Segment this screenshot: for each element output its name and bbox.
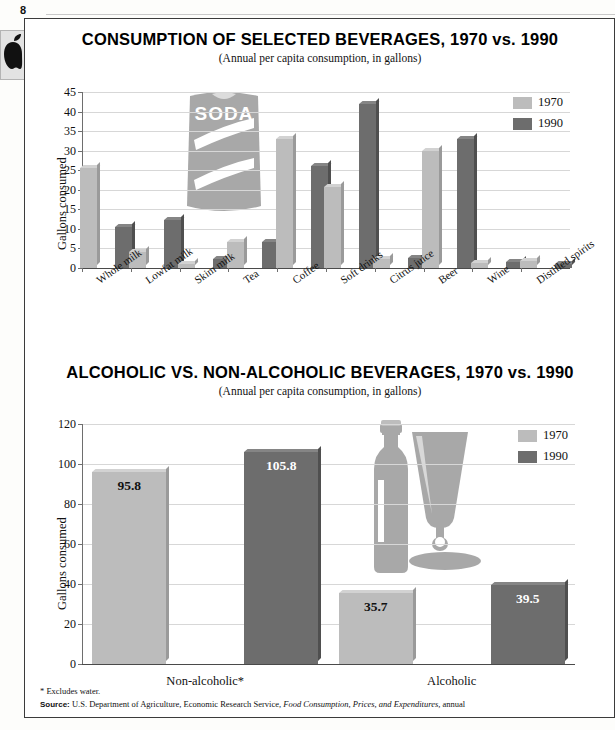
chart-1-y-axis-title: Gallons consumed (55, 157, 70, 250)
bar-face (359, 104, 376, 268)
x-tickmark (326, 268, 327, 272)
bar-side (318, 446, 321, 661)
x-tickmark (277, 268, 278, 272)
chart-2-y-axis-title: Gallons consumed (55, 517, 70, 610)
x-tickmark (521, 268, 522, 272)
bar-value-label: 95.8 (117, 478, 141, 494)
bar-1990-Non-alcoholic* (244, 452, 318, 664)
chart-1-title-text: CONSUMPTION OF SELECTED BEVERAGES, 1970 … (34, 30, 606, 49)
bar-side (376, 98, 379, 265)
legend-swatch-1970 (513, 97, 532, 109)
chart-1-legend: 1970 1990 (513, 95, 563, 137)
y-tick-label: 20 (50, 617, 76, 632)
footnote-asterisk: * Excludes water. (40, 686, 100, 696)
bar-1970-Soft drinks (324, 187, 341, 268)
page-number: 8 (20, 4, 26, 16)
bar-face (276, 139, 293, 268)
bar-side (537, 255, 540, 265)
x-axis-label: Alcoholic (427, 674, 476, 689)
bar-1970-Coffee (276, 139, 293, 268)
legend-label-1990: 1990 (538, 116, 563, 131)
bar-face (520, 261, 537, 268)
svg-text:SODA: SODA (195, 103, 254, 124)
bar-top (491, 582, 569, 585)
bar-face (324, 187, 341, 268)
y-tick-label: 45 (50, 85, 76, 100)
legend-item-1970: 1970 (513, 95, 563, 110)
legend-swatch-1990 (518, 451, 537, 463)
beer-bottle-and-glass-illustration (352, 418, 487, 583)
source-publication: Food Consumption, Prices, and Expenditur… (283, 699, 440, 709)
chart-2-title-text: ALCOHOLIC VS. NON-ALCOHOLIC BEVERAGES, 1… (34, 363, 606, 382)
bar-1990-Beer (457, 139, 474, 268)
chart-2-subtitle: (Annual per capita consumption, in gallo… (34, 385, 606, 397)
y-tick-label: 40 (50, 104, 76, 119)
bar-value-label: 39.5 (516, 591, 540, 607)
gridline (82, 112, 570, 113)
y-tick-label: 100 (50, 457, 76, 472)
legend-item-1990: 1990 (518, 449, 568, 464)
chart-2-title: ALCOHOLIC VS. NON-ALCOHOLIC BEVERAGES, 1… (34, 363, 606, 397)
bar-side (244, 236, 247, 265)
bar-face (244, 452, 318, 664)
gridline (82, 131, 570, 132)
bar-face (92, 472, 166, 664)
bar-side (293, 133, 296, 265)
bar-top (339, 590, 417, 593)
bar-top (244, 449, 322, 452)
chart-2-y-axis (82, 424, 83, 664)
gridline (82, 92, 570, 93)
bar-side (166, 466, 169, 661)
chart-2-legend: 1970 1990 (518, 428, 568, 470)
bar-side (341, 181, 344, 265)
bar-side (146, 246, 149, 265)
chart-1-plot: SODA 051015202530354045 Whole milkLowfat… (82, 92, 570, 268)
legend-label-1990: 1990 (543, 449, 568, 464)
y-tick-label: 0 (50, 261, 76, 276)
apple-icon (0, 30, 26, 80)
bar-side (565, 579, 568, 661)
x-axis-label: Non-alcoholic* (166, 674, 244, 689)
legend-item-1990: 1990 (513, 116, 563, 131)
legend-label-1970: 1970 (543, 428, 568, 443)
soda-can-illustration: SODA (182, 88, 266, 218)
bar-side (390, 253, 393, 265)
x-tickmark (375, 268, 376, 272)
footnote-source: Source: U.S. Department of Agriculture, … (40, 699, 465, 709)
header-rule (46, 14, 615, 15)
legend-item-1970: 1970 (518, 428, 568, 443)
source-label: Source: (40, 700, 70, 709)
bar-value-label: 105.8 (266, 458, 296, 474)
legend-label-1970: 1970 (538, 95, 563, 110)
source-text-1: U.S. Department of Agriculture, Economic… (72, 699, 281, 709)
y-tick-label: 35 (50, 124, 76, 139)
bar-side (195, 258, 198, 265)
source-text-2: annual (442, 699, 465, 709)
bar-side (97, 162, 100, 265)
page-root: 8 CONSUMPTION OF SELECTED BEVERAGES, 197… (0, 0, 615, 730)
x-tickmark (131, 268, 132, 272)
gridline (82, 151, 570, 152)
bar-1990-Soft drinks (359, 104, 376, 268)
y-tick-label: 120 (50, 417, 76, 432)
y-tick-label: 30 (50, 143, 76, 158)
bar-value-label: 35.7 (364, 599, 388, 615)
x-tickmark (424, 268, 425, 272)
legend-swatch-1990 (513, 118, 532, 130)
bar-top (92, 469, 170, 472)
x-tickmark (180, 268, 181, 272)
legend-swatch-1970 (518, 430, 537, 442)
x-tickmark (472, 268, 473, 272)
chart-2-plot: 020406080100120 95.8105.835.739.5 Non-al… (82, 424, 575, 664)
bar-1970-Distilled spirits (520, 261, 537, 268)
bar-face (457, 139, 474, 268)
chart-1-title: CONSUMPTION OF SELECTED BEVERAGES, 1970 … (34, 30, 606, 64)
bar-side (413, 587, 416, 661)
bar-1970-Non-alcoholic* (92, 472, 166, 664)
chart-1-subtitle: (Annual per capita consumption, in gallo… (34, 52, 606, 64)
bar-1970-Whole milk (80, 168, 97, 268)
bar-side (488, 257, 491, 265)
x-tickmark (82, 268, 83, 272)
bar-side (474, 133, 477, 265)
y-tick-label: 0 (50, 657, 76, 672)
